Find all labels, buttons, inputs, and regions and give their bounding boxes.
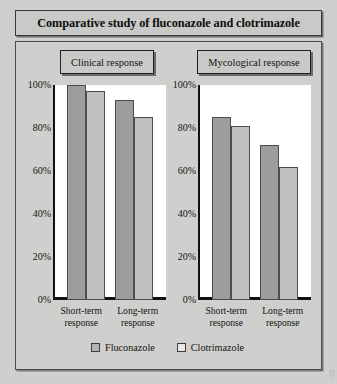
y-tick-label: 0%	[38, 295, 51, 305]
y-tick-label: 100%	[173, 80, 196, 90]
x-axis-label: Short-termresponse	[198, 305, 255, 337]
figure-container: Comparative study of fluconazole and clo…	[0, 0, 337, 384]
panel-header-clinical: Clinical response	[60, 50, 154, 74]
bar-clotrimazole-short-term-response	[86, 91, 105, 300]
y-tick-label: 40%	[178, 209, 196, 219]
y-tick-label: 40%	[33, 209, 51, 219]
y-tick-label: 80%	[33, 123, 51, 133]
chart-legend: FluconazoleClotrimazole	[15, 339, 320, 355]
bar-clotrimazole-long-term-response	[134, 117, 153, 300]
panel-header-mycological: Mycological response	[197, 50, 311, 74]
legend-item-fluconazole: Fluconazole	[91, 342, 155, 353]
bar-fluconazole-short-term-response	[212, 117, 231, 300]
x-axis-label: Long-termresponse	[255, 305, 312, 337]
bar-group	[110, 100, 158, 300]
legend-label: Clotrimazole	[191, 342, 244, 353]
panel-header-mycological-label: Mycological response	[208, 57, 299, 68]
y-tick-label: 20%	[33, 252, 51, 262]
y-tick-label: 80%	[178, 123, 196, 133]
y-tick-label: 60%	[33, 166, 51, 176]
bar-fluconazole-long-term-response	[115, 100, 134, 300]
legend-item-clotrimazole: Clotrimazole	[177, 342, 244, 353]
x-axis-labels-mycological: Short-termresponseLong-termresponse	[198, 305, 311, 337]
y-tick-label: 0%	[183, 295, 196, 305]
page-title: Comparative study of fluconazole and clo…	[37, 16, 300, 31]
y-axis-mycological: 0%20%40%60%80%100%	[162, 85, 196, 300]
figure-title-box: Comparative study of fluconazole and clo…	[15, 10, 322, 36]
x-axis-labels-clinical: Short-termresponseLong-termresponse	[53, 305, 166, 337]
y-tick-label: 60%	[178, 166, 196, 176]
bar-group	[62, 85, 110, 300]
bar-clotrimazole-short-term-response	[231, 126, 250, 300]
bar-group-container-clinical	[53, 85, 166, 300]
page-corner-artifact	[329, 370, 335, 382]
bar-fluconazole-short-term-response	[67, 85, 86, 300]
panel-header-clinical-label: Clinical response	[71, 57, 143, 68]
legend-swatch-fluconazole	[91, 343, 100, 352]
chart-mycological	[198, 85, 311, 300]
bar-group	[207, 117, 255, 300]
x-axis-label: Short-termresponse	[53, 305, 110, 337]
bar-group-container-mycological	[198, 85, 311, 300]
chart-clinical	[53, 85, 166, 300]
y-tick-label: 20%	[178, 252, 196, 262]
legend-swatch-clotrimazole	[177, 343, 186, 352]
x-axis-label: Long-termresponse	[110, 305, 167, 337]
y-tick-label: 100%	[28, 80, 51, 90]
bar-clotrimazole-long-term-response	[279, 167, 298, 300]
bar-group	[255, 145, 303, 300]
bar-fluconazole-long-term-response	[260, 145, 279, 300]
legend-label: Fluconazole	[105, 342, 155, 353]
y-axis-clinical: 0%20%40%60%80%100%	[17, 85, 51, 300]
